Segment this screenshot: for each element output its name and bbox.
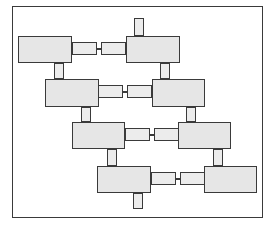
vertical-stub <box>213 149 223 166</box>
connector-bridge <box>123 91 127 93</box>
block <box>97 166 151 193</box>
diagram-canvas <box>0 0 274 229</box>
connector-segment <box>101 42 126 55</box>
connector-segment <box>72 42 97 55</box>
block <box>152 79 205 107</box>
connector-segment <box>125 128 150 141</box>
connector-segment <box>154 128 179 141</box>
connector-bridge <box>176 178 180 180</box>
block <box>72 122 125 149</box>
vertical-stub <box>134 18 144 36</box>
vertical-stub <box>107 149 117 166</box>
vertical-stub <box>54 63 64 79</box>
connector-bridge <box>97 48 101 50</box>
connector-segment <box>127 85 152 98</box>
connector-segment <box>180 172 205 185</box>
vertical-stub <box>160 63 170 79</box>
block <box>126 36 180 63</box>
vertical-stub <box>81 107 91 122</box>
block <box>178 122 231 149</box>
block <box>204 166 257 193</box>
connector-bridge <box>150 134 154 136</box>
connector-segment <box>98 85 123 98</box>
connector-segment <box>151 172 176 185</box>
vertical-stub <box>133 193 143 209</box>
vertical-stub <box>186 107 196 122</box>
block <box>18 36 72 63</box>
block <box>45 79 99 107</box>
